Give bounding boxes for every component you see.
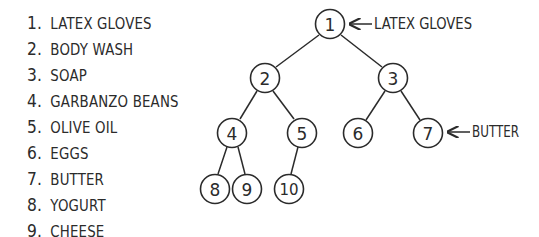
- svg-text:2: 2: [260, 69, 271, 89]
- callout-butter: BUTTER: [448, 123, 519, 141]
- edge-3-7: [401, 91, 420, 120]
- tree-edges: [218, 35, 420, 174]
- edge-4-8: [218, 147, 227, 174]
- svg-text:BUTTER: BUTTER: [472, 123, 519, 141]
- tree-node-6: 6: [344, 119, 373, 148]
- tree-node-2: 2: [251, 64, 280, 93]
- edge-5-10: [291, 147, 298, 174]
- svg-text:1: 1: [325, 15, 336, 35]
- svg-text:9: 9: [242, 180, 253, 200]
- heap-tree-diagram: 1 2 3 4 5 6 7 8 9 10 LATEX GLOVES BUTTER: [0, 0, 539, 237]
- edge-4-9: [238, 147, 245, 174]
- tree-node-9: 9: [233, 175, 262, 204]
- tree-node-8: 8: [201, 175, 230, 204]
- tree-node-4: 4: [218, 119, 247, 148]
- tree-node-5: 5: [288, 119, 317, 148]
- svg-text:10: 10: [279, 181, 298, 199]
- svg-text:8: 8: [210, 180, 221, 200]
- tree-node-3: 3: [379, 64, 408, 93]
- svg-text:7: 7: [423, 124, 434, 144]
- edge-1-2: [276, 35, 319, 67]
- tree-node-7: 7: [414, 119, 443, 148]
- edge-2-4: [240, 91, 257, 119]
- svg-text:LATEX GLOVES: LATEX GLOVES: [374, 15, 472, 33]
- edge-1-3: [341, 35, 382, 67]
- svg-text:6: 6: [353, 124, 364, 144]
- edge-3-6: [366, 91, 385, 120]
- tree-node-10: 10: [275, 175, 304, 204]
- tree-node-1: 1: [316, 10, 345, 39]
- svg-text:3: 3: [388, 69, 399, 89]
- callout-latex-gloves: LATEX GLOVES: [350, 15, 472, 33]
- svg-text:5: 5: [297, 124, 308, 144]
- svg-text:4: 4: [227, 124, 238, 144]
- edge-2-5: [273, 91, 294, 119]
